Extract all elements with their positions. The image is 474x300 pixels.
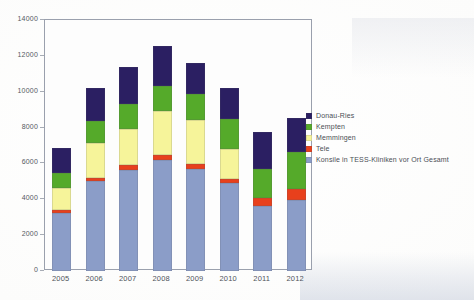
- bar-segment-2012-konsile-in-tess-kliniken-vor-ort-gesamt[interactable]: [287, 200, 306, 271]
- legend-swatch-icon: [306, 135, 312, 141]
- legend-item-label: Donau-Ries: [316, 112, 354, 119]
- x-axis-tick-label-2008: 2008: [144, 274, 178, 283]
- legend-item-label: Tele: [316, 145, 329, 152]
- bar-segment-2006-donau-ries[interactable]: [86, 88, 105, 121]
- y-axis-tick-label: 14000: [0, 15, 38, 23]
- bar-segment-2005-konsile-in-tess-kliniken-vor-ort-gesamt[interactable]: [52, 213, 71, 271]
- bar-segment-2011-tele[interactable]: [253, 198, 272, 205]
- bar-segment-2007-konsile-in-tess-kliniken-vor-ort-gesamt[interactable]: [119, 170, 138, 271]
- legend-swatch-icon: [306, 124, 312, 130]
- legend-item-konsile-in-tess-kliniken-vor-ort-gesamt[interactable]: Konsile in TESS-Kliniken vor Ort Gesamt: [306, 154, 472, 165]
- bar-segment-2011-kempten[interactable]: [253, 169, 272, 199]
- bar-2009[interactable]: [186, 63, 205, 271]
- x-axis-tick-label-2012: 2012: [278, 274, 312, 283]
- legend-item-label: Memmingen: [316, 134, 356, 141]
- legend-item-donau-ries[interactable]: Donau-Ries: [306, 110, 472, 121]
- bar-segment-2008-konsile-in-tess-kliniken-vor-ort-gesamt[interactable]: [153, 160, 172, 271]
- x-axis-tick-label-2011: 2011: [245, 274, 279, 283]
- legend-item-tele[interactable]: Tele: [306, 143, 472, 154]
- bar-segment-2010-kempten[interactable]: [220, 119, 239, 149]
- legend-item-kempten[interactable]: Kempten: [306, 121, 472, 132]
- bars-layer: [45, 20, 313, 271]
- scanned-chart-page: 02000400060008000100001200014000 2005200…: [0, 0, 474, 300]
- legend-item-label: Kempten: [316, 123, 345, 130]
- bar-segment-2005-memmingen[interactable]: [52, 188, 71, 210]
- legend-item-label: Konsile in TESS-Kliniken vor Ort Gesamt: [316, 156, 449, 163]
- bar-segment-2009-konsile-in-tess-kliniken-vor-ort-gesamt[interactable]: [186, 169, 205, 271]
- bar-segment-2009-kempten[interactable]: [186, 94, 205, 119]
- bar-segment-2009-donau-ries[interactable]: [186, 63, 205, 94]
- x-axis-tick-label-2005: 2005: [44, 274, 78, 283]
- x-axis-tick-label-2009: 2009: [178, 274, 212, 283]
- x-axis-tick-label-2006: 2006: [77, 274, 111, 283]
- chart-legend: Donau-RiesKemptenMemmingenTeleKonsile in…: [306, 110, 472, 165]
- bar-segment-2007-memmingen[interactable]: [119, 129, 138, 166]
- y-axis-tick-label: 10000: [0, 87, 38, 95]
- bar-segment-2011-donau-ries[interactable]: [253, 132, 272, 169]
- bar-segment-2011-konsile-in-tess-kliniken-vor-ort-gesamt[interactable]: [253, 206, 272, 271]
- bar-segment-2006-konsile-in-tess-kliniken-vor-ort-gesamt[interactable]: [86, 181, 105, 271]
- bar-2006[interactable]: [86, 88, 105, 271]
- y-axis-tick-label: 8000: [0, 123, 38, 131]
- bar-2008[interactable]: [153, 46, 172, 271]
- bar-2007[interactable]: [119, 67, 138, 271]
- bar-segment-2007-donau-ries[interactable]: [119, 67, 138, 105]
- y-axis-tick-label: 0: [0, 266, 38, 274]
- bar-2011[interactable]: [253, 132, 272, 271]
- bar-segment-2010-memmingen[interactable]: [220, 149, 239, 179]
- bar-segment-2005-donau-ries[interactable]: [52, 148, 71, 173]
- y-axis-tick-label: 2000: [0, 230, 38, 238]
- x-axis: 20052006200720082009201020112012: [44, 274, 312, 294]
- y-axis-tick-mark: [40, 270, 44, 271]
- plot-area: [44, 19, 312, 270]
- bar-segment-2010-donau-ries[interactable]: [220, 88, 239, 118]
- bar-segment-2006-kempten[interactable]: [86, 121, 105, 143]
- scan-artifact-top: [352, 18, 474, 78]
- bar-2012[interactable]: [287, 118, 306, 271]
- x-axis-tick-label-2010: 2010: [211, 274, 245, 283]
- legend-swatch-icon: [306, 157, 312, 163]
- bar-2005[interactable]: [52, 148, 71, 271]
- y-axis-tick-label: 6000: [0, 158, 38, 166]
- bar-segment-2010-konsile-in-tess-kliniken-vor-ort-gesamt[interactable]: [220, 183, 239, 271]
- bar-segment-2012-kempten[interactable]: [287, 152, 306, 189]
- legend-swatch-icon: [306, 146, 312, 152]
- y-axis-tick-label: 4000: [0, 194, 38, 202]
- y-axis: 02000400060008000100001200014000: [0, 0, 42, 300]
- bar-segment-2008-donau-ries[interactable]: [153, 46, 172, 86]
- bar-segment-2009-memmingen[interactable]: [186, 120, 205, 165]
- scan-artifact-bottom: [300, 252, 474, 300]
- bar-segment-2008-kempten[interactable]: [153, 86, 172, 111]
- y-axis-tick-label: 12000: [0, 51, 38, 59]
- bar-segment-2012-donau-ries[interactable]: [287, 118, 306, 152]
- legend-swatch-icon: [306, 113, 312, 119]
- x-axis-tick-label-2007: 2007: [111, 274, 145, 283]
- bar-2010[interactable]: [220, 88, 239, 271]
- bar-segment-2008-memmingen[interactable]: [153, 111, 172, 155]
- bar-segment-2007-kempten[interactable]: [119, 104, 138, 128]
- bar-segment-2005-kempten[interactable]: [52, 173, 71, 187]
- legend-item-memmingen[interactable]: Memmingen: [306, 132, 472, 143]
- bar-segment-2012-tele[interactable]: [287, 189, 306, 201]
- bar-segment-2006-memmingen[interactable]: [86, 143, 105, 178]
